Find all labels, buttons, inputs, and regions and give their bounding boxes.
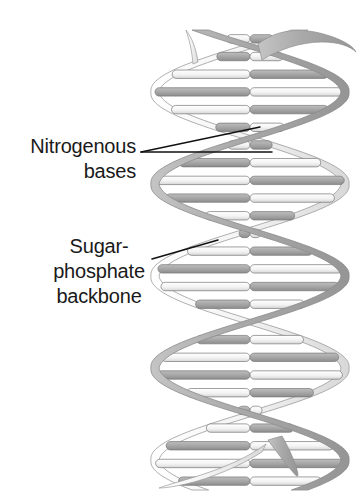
base-half <box>250 353 339 361</box>
base-half <box>196 300 250 308</box>
base-half <box>250 158 321 166</box>
dna-figure: Nitrogenous bases Sugar- phosphate backb… <box>0 0 361 504</box>
label-nitrogenous-bases-line2: bases <box>84 160 137 182</box>
base-half <box>206 424 250 432</box>
base-half <box>158 371 250 379</box>
base-half <box>172 70 250 78</box>
label-sugar-phosphate-line3: backbone <box>56 285 141 307</box>
label-nitrogenous-bases-line1: Nitrogenous <box>30 135 136 157</box>
base-half <box>250 282 339 290</box>
base-half <box>155 88 250 96</box>
base-half <box>156 176 250 184</box>
base-half <box>250 141 272 149</box>
base-half <box>250 388 313 396</box>
base-half <box>161 282 250 290</box>
base-half <box>166 194 250 202</box>
base-half <box>250 176 344 184</box>
base-half <box>166 442 250 450</box>
base-half <box>250 194 334 202</box>
base-half <box>250 335 303 343</box>
base-half <box>250 265 342 273</box>
base-half <box>250 88 345 96</box>
label-sugar-phosphate-line2: phosphate <box>53 260 145 282</box>
base-half <box>217 52 250 60</box>
dna-diagram-page: Nitrogenous bases Sugar- phosphate backb… <box>0 0 361 504</box>
base-half <box>161 353 250 361</box>
label-sugar-phosphate-line1: Sugar- <box>70 235 129 257</box>
base-half <box>250 459 344 467</box>
base-half <box>171 105 250 113</box>
base-half <box>250 371 342 379</box>
base-half <box>158 265 250 273</box>
base-half <box>250 212 295 220</box>
base-half <box>187 247 250 255</box>
